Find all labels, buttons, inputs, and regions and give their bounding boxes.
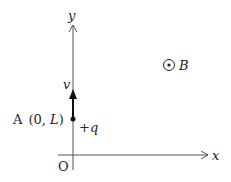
point-a-label: A(0, L) <box>12 112 64 127</box>
magnetic-field-out-of-page-icon <box>164 60 175 71</box>
point-a-dot <box>71 117 76 122</box>
physics-diagram: x y O v A(0, L) +q B <box>0 0 231 182</box>
velocity-arrow-icon <box>69 89 77 119</box>
velocity-label: v <box>63 77 71 92</box>
x-axis-label: x <box>212 148 220 163</box>
y-axis-label: y <box>67 8 76 23</box>
magnetic-field-label: B <box>178 58 189 73</box>
charge-label: +q <box>79 120 98 135</box>
origin-label: O <box>58 159 69 174</box>
